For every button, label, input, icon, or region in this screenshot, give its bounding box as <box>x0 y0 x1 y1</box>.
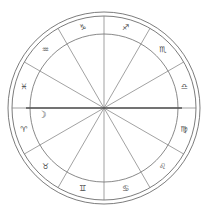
virgo-glyph-icon: ♍ <box>181 125 188 134</box>
house-spoke-aquarius <box>67 44 104 108</box>
cusp-line-scorpio <box>168 62 184 71</box>
aquarius-glyph-icon: ♒ <box>42 45 49 54</box>
cusp-line-aquarius <box>58 28 67 44</box>
sagittarius-glyph-icon: ♐ <box>122 23 129 32</box>
cusp-line-virgo <box>168 145 184 154</box>
house-spoke-gemini <box>67 108 104 172</box>
aries-glyph-icon: ♈ <box>20 125 27 134</box>
wheel-svg: ♑♒♓♈♉♊♋♌♍♎♏♐ ☽ <box>0 0 208 217</box>
pisces-glyph-icon: ♓ <box>20 82 27 91</box>
house-spoke-leo <box>104 108 141 172</box>
house-spoke-virgo <box>104 108 168 145</box>
taurus-glyph-icon: ♉ <box>42 162 49 171</box>
house-spoke-taurus <box>40 108 104 145</box>
cusp-line-taurus <box>24 145 40 154</box>
cusp-line-leo <box>141 172 150 188</box>
libra-glyph-icon: ♎ <box>181 82 188 91</box>
cancer-glyph-icon: ♋ <box>122 184 129 193</box>
moon-glyph-icon: ☽ <box>38 109 47 120</box>
house-spoke-scorpio <box>104 71 168 108</box>
cusp-line-sagittarius <box>141 28 150 44</box>
capricorn-glyph-icon: ♑ <box>79 23 86 32</box>
planet-glyph-group: ☽ <box>38 109 47 120</box>
astrology-chart-wheel: ♑♒♓♈♉♊♋♌♍♎♏♐ ☽ <box>0 0 208 217</box>
gemini-glyph-icon: ♊ <box>79 184 86 193</box>
cusp-line-pisces <box>24 62 40 71</box>
house-spoke-sagittarius <box>104 44 141 108</box>
cusp-line-gemini <box>58 172 67 188</box>
leo-glyph-icon: ♌ <box>159 162 166 171</box>
scorpio-glyph-icon: ♏ <box>159 45 167 54</box>
house-spoke-pisces <box>40 71 104 108</box>
